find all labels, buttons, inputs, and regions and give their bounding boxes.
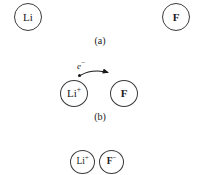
atom-label-fluoride-anion-product: F− [107, 157, 117, 167]
electron-transfer-arrow-icon [78, 66, 118, 86]
atom-label-fluorine-neutral: F [173, 12, 180, 23]
atom-circle-lithium-cation-product: Li+ [70, 150, 95, 174]
ionic-bond-formation-diagram: Li F (a) Li+ F e− (b) Li+ F− [0, 0, 200, 175]
atom-symbol-lithium-transfer: Li [67, 87, 77, 99]
charge-superscript-fluoride-product: − [113, 154, 117, 161]
atom-label-fluorine-transfer: F [121, 88, 128, 99]
atom-circle-fluorine-neutral: F [162, 3, 190, 31]
stage-caption-b: (b) [0, 112, 200, 122]
charge-superscript-lithium-product: + [85, 154, 89, 161]
atom-circle-lithium-neutral: Li [14, 3, 42, 31]
charge-superscript-lithium-transfer: + [77, 85, 81, 94]
atom-label-lithium-cation-product: Li+ [76, 157, 88, 167]
atom-label-lithium-neutral: Li [23, 12, 33, 23]
atom-label-lithium-cation-transfer: Li+ [67, 88, 81, 99]
atom-symbol-lithium-product: Li [76, 156, 84, 166]
stage-caption-a: (a) [0, 36, 200, 46]
atom-circle-fluoride-anion-product: F− [99, 150, 124, 174]
atom-symbol-fluorine-product: F [107, 156, 113, 166]
